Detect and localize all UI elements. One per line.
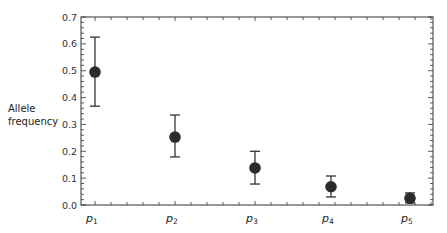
y-tick-label: 0.3 xyxy=(62,119,77,130)
x-category-label: p4 xyxy=(321,212,334,226)
y-tick-label: 0.5 xyxy=(62,65,77,76)
x-category-label: p3 xyxy=(245,212,258,226)
y-tick-label: 0.7 xyxy=(62,12,77,23)
x-axis-category-labels: p1p2p3p4p5 xyxy=(85,212,413,226)
data-point-p2 xyxy=(169,115,181,157)
point-marker xyxy=(249,162,261,174)
data-points xyxy=(89,37,416,204)
data-point-p3 xyxy=(249,151,261,184)
point-marker xyxy=(325,181,337,193)
y-tick-label: 0.4 xyxy=(62,92,77,103)
point-marker xyxy=(89,66,101,78)
plot-border xyxy=(81,17,433,205)
y-tick-label: 0.6 xyxy=(62,38,77,49)
plot-frame xyxy=(81,17,433,205)
y-tick-label: 0.1 xyxy=(62,173,77,184)
allele-frequency-chart: Allelefrequency 0.00.10.20.30.40.50.60.7… xyxy=(0,0,447,233)
point-marker xyxy=(404,192,416,204)
x-category-label: p2 xyxy=(165,212,178,226)
x-category-label: p5 xyxy=(400,212,413,226)
data-point-p1 xyxy=(89,37,101,106)
point-marker xyxy=(169,131,181,143)
y-label-line: Allele xyxy=(8,103,35,114)
y-axis-ticks: 0.00.10.20.30.40.50.60.7 xyxy=(62,12,433,211)
data-point-p5 xyxy=(404,192,416,204)
y-axis-label: Allelefrequency xyxy=(8,103,58,127)
data-point-p4 xyxy=(325,176,337,197)
y-tick-label: 0.0 xyxy=(62,200,77,211)
y-label-line: frequency xyxy=(8,116,58,127)
y-tick-label: 0.2 xyxy=(62,146,77,157)
x-category-label: p1 xyxy=(85,212,98,226)
x-axis-ticks xyxy=(95,17,431,205)
